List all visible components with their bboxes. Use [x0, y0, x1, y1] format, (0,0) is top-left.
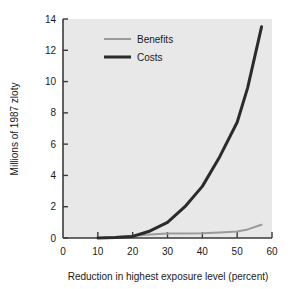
- x-tick-label: 40: [197, 246, 209, 257]
- y-tick-label: 10: [45, 76, 57, 87]
- y-tick-label: 4: [50, 170, 56, 181]
- benefits-costs-line-chart: 02468101214 0102030405060 Benefits Costs…: [0, 0, 296, 289]
- y-tick-label: 0: [50, 233, 56, 244]
- y-tick-label: 6: [50, 139, 56, 150]
- x-tick-label: 60: [266, 246, 278, 257]
- x-tick-label: 0: [60, 246, 66, 257]
- x-tick-label: 30: [162, 246, 174, 257]
- x-tick-label: 50: [232, 246, 244, 257]
- y-tick-label: 12: [45, 45, 57, 56]
- legend-label-costs: Costs: [137, 52, 163, 63]
- x-tick-label: 10: [92, 246, 104, 257]
- y-tick-label: 14: [45, 14, 57, 25]
- plot-area-background: [63, 19, 272, 238]
- y-axis-title: Millions of 1987 zloty: [9, 83, 20, 176]
- y-tick-label: 8: [50, 107, 56, 118]
- x-tick-label: 20: [127, 246, 139, 257]
- x-axis-title: Reduction in highest exposure level (per…: [68, 271, 269, 282]
- chart-container: 02468101214 0102030405060 Benefits Costs…: [0, 0, 296, 289]
- legend-label-benefits: Benefits: [137, 34, 173, 45]
- y-tick-label: 2: [50, 201, 56, 212]
